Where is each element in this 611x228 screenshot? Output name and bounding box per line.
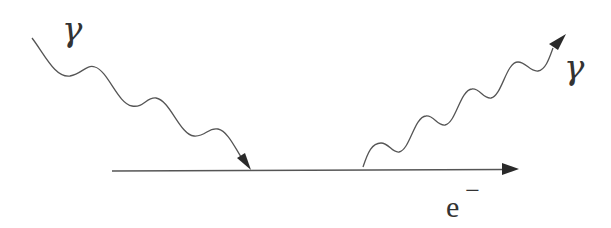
- electron-label: e−: [446, 192, 480, 222]
- electron-line: [112, 170, 505, 172]
- outgoing-photon-wave: [363, 48, 553, 167]
- incoming-photon-wave: [32, 38, 243, 160]
- electron-charge: −: [465, 176, 480, 205]
- incoming-photon-label: γ: [62, 12, 82, 46]
- electron-symbol: e: [446, 190, 459, 223]
- electron-arrowhead-icon: [502, 163, 519, 175]
- incoming-arrowhead-icon: [237, 153, 251, 170]
- outgoing-photon-label: γ: [564, 50, 584, 84]
- compton-scattering-diagram: [0, 0, 611, 228]
